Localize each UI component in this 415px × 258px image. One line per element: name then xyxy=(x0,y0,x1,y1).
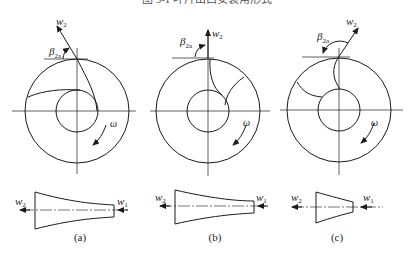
panel-caption: (a) xyxy=(74,231,87,244)
flow-channel xyxy=(175,190,254,224)
beta-label: β2a xyxy=(48,45,62,60)
beta-angle-arc xyxy=(195,45,205,57)
outlet-w2-label: w2 xyxy=(291,191,302,205)
panel-c xyxy=(280,28,403,223)
beta-label: β2a xyxy=(179,35,193,50)
omega-arrow xyxy=(233,125,246,145)
inlet-w1-label: w1 xyxy=(256,191,267,205)
w2-label: w2 xyxy=(346,15,357,29)
inlet-w1-label: w1 xyxy=(117,195,128,209)
flow-channel xyxy=(316,192,353,223)
panel-b xyxy=(150,30,270,224)
flow-channel xyxy=(35,192,114,229)
blade-curve xyxy=(210,59,222,95)
w2-label: w2 xyxy=(212,27,223,41)
omega-label: ω xyxy=(371,117,378,128)
omega-arrow xyxy=(93,125,106,145)
panel-caption: (c) xyxy=(331,231,344,244)
beta-angle-arc xyxy=(63,48,69,59)
blade-curve xyxy=(225,77,244,105)
panel-caption: (b) xyxy=(209,231,222,244)
omega-label: ω xyxy=(243,117,250,128)
w2-label: w2 xyxy=(56,15,67,29)
blade-curve xyxy=(297,82,322,97)
figure-title-partial: 图 5-1 叶片出口安装角形式 xyxy=(142,0,272,5)
omega-label: ω xyxy=(110,118,117,129)
outlet-w2-label: w2 xyxy=(155,191,166,205)
beta-label: β2a xyxy=(316,30,330,45)
blade-curve xyxy=(77,59,97,111)
outlet-w2-label: w2 xyxy=(15,195,26,209)
inlet-w1-label: w1 xyxy=(363,191,374,205)
impeller-blade-diagram: 图 5-1 叶片出口安装角形式 w2 β2a ω w2 w1 (a) xyxy=(0,0,415,258)
